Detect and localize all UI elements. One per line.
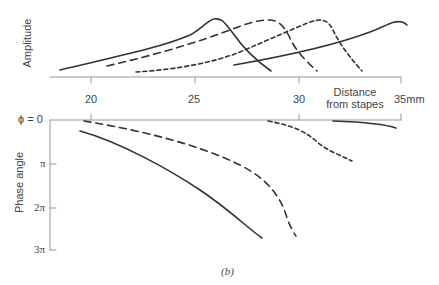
x-tick-label-35mm: 35mm (394, 93, 425, 105)
amplitude-curve-shortdash (136, 20, 362, 72)
phase-curve-solid-1 (80, 131, 262, 238)
x-axis-title-line2: from stapes (320, 98, 390, 110)
phase-tick-label-pi: π (40, 157, 46, 169)
cochlea-traveling-wave-figure: Amplitude Phase angle 20 25 30 35mm Dist… (0, 0, 439, 285)
x-tick-label-30: 30 (293, 93, 305, 105)
phase-tick-label-0: ϕ = 0 (18, 113, 43, 125)
amplitude-axis-label: Amplitude (21, 18, 33, 68)
phase-curve-solid-2 (333, 121, 396, 128)
x-tick-label-25: 25 (188, 93, 200, 105)
phase-curve-shortdash (268, 121, 352, 161)
figure-caption: (b) (221, 265, 234, 277)
amplitude-curve-longdash (107, 20, 317, 71)
phase-tick-label-2pi: 2π (34, 201, 45, 213)
x-tick-label-20: 20 (85, 93, 97, 105)
phase-curve-longdash (84, 121, 296, 236)
x-axis-title-line1: Distance (320, 86, 390, 98)
chart-canvas (0, 0, 439, 285)
phase-tick-label-3pi: 3π (34, 243, 45, 255)
phase-axis-label: Phase angle (13, 153, 25, 213)
